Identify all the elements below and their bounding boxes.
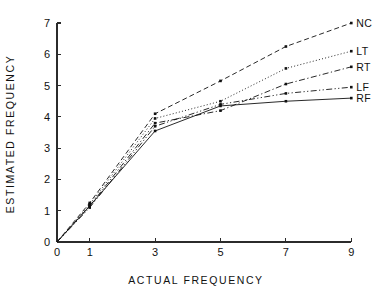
x-tick-label: 5 [217, 246, 223, 258]
y-tick-label: 2 [44, 173, 50, 185]
line-chart: 12345670 013579 NCLTRTLFRF ACTUAL FREQUE… [0, 0, 377, 296]
x-tick-label: 7 [283, 246, 289, 258]
data-point-marker [285, 83, 288, 86]
y-tick-label: 5 [44, 80, 50, 92]
data-point-marker [350, 50, 353, 53]
y-axis-title: ESTIMATED FREQUENCY [4, 55, 16, 214]
y-tick-label: 4 [44, 111, 50, 123]
data-point-marker [219, 80, 222, 83]
data-point-marker [285, 45, 288, 48]
data-point-marker [219, 100, 222, 103]
series-label-rf: RF [356, 92, 371, 104]
data-point-marker [219, 109, 222, 112]
data-point-marker [154, 117, 157, 120]
data-point-marker [350, 86, 353, 89]
y-tick-label: 6 [44, 48, 50, 60]
x-tick-label: 0 [54, 246, 60, 258]
data-point-marker [88, 205, 91, 208]
data-point-marker [285, 67, 288, 70]
x-tick-label: 1 [87, 246, 93, 258]
data-point-marker [285, 92, 288, 95]
data-point-marker [154, 122, 157, 125]
x-tick-label: 9 [348, 246, 354, 258]
data-point-marker [219, 105, 222, 108]
y-tick-label: 1 [44, 205, 50, 217]
data-point-marker [154, 130, 157, 133]
series-label-rt: RT [356, 61, 371, 73]
data-point-marker [350, 97, 353, 100]
data-point-marker [285, 100, 288, 103]
data-point-marker [350, 22, 353, 25]
y-tick-label: 7 [44, 17, 50, 29]
series-label-lt: LT [356, 45, 368, 57]
x-axis-title: ACTUAL FREQUENCY [128, 274, 263, 286]
series-label-nc: NC [356, 17, 372, 29]
y-tick-label: 0 [44, 236, 50, 248]
data-point-marker [350, 66, 353, 69]
data-point-marker [154, 112, 157, 115]
y-tick-label: 3 [44, 142, 50, 154]
data-point-marker [154, 125, 157, 128]
x-tick-label: 3 [152, 246, 158, 258]
